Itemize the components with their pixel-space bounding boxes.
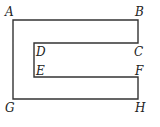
label-b: B <box>134 5 144 19</box>
label-c: C <box>134 45 143 59</box>
label-a: A <box>4 5 14 19</box>
c-shape-outline <box>13 20 138 99</box>
label-g: G <box>5 101 15 115</box>
label-e: E <box>35 64 45 78</box>
label-d: D <box>35 45 46 59</box>
label-f: F <box>134 64 144 78</box>
label-h: H <box>134 101 146 115</box>
c-shape-diagram: A B C D E F G H <box>0 0 160 127</box>
